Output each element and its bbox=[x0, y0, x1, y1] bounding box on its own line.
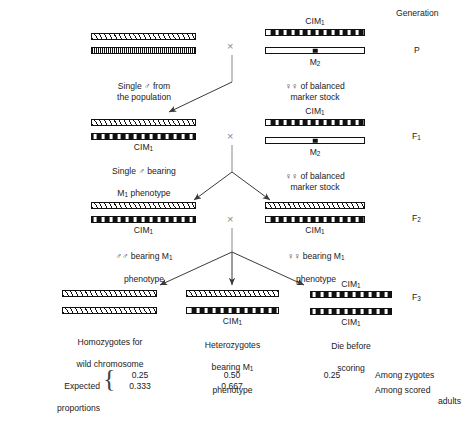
caption-p-left-text: Single ♂ from the population bbox=[117, 81, 171, 102]
label-f3-middle-cim1-text: CIM bbox=[223, 316, 239, 326]
generation-f2-sub: 2 bbox=[417, 216, 421, 223]
generation-p-text: P bbox=[414, 45, 420, 55]
arrow-f1-to-f2 bbox=[194, 145, 270, 200]
caption-f2-left-line1-pre: ♂♂ bearing M bbox=[115, 251, 169, 261]
label-f1-left-cim1-sub: 1 bbox=[150, 145, 154, 152]
label-f3-right-cim1-top: CIM1 bbox=[310, 279, 392, 291]
proportion-middle-adults: 0.667 bbox=[192, 381, 272, 392]
proportion-left-adults: 0.333 bbox=[100, 381, 180, 392]
label-p-right-m2-text: M bbox=[310, 57, 317, 67]
caption-f2-left-line2: phenotype bbox=[124, 274, 164, 284]
label-f1-right-cim1-text: CIM bbox=[305, 106, 321, 116]
chromosome-p-left-population bbox=[91, 47, 196, 54]
note-among-scored-adults-line2: adults bbox=[375, 396, 461, 407]
label-f1-right-m2: M2 bbox=[265, 147, 365, 159]
label-f3-right-cim1-bottom: CIM1 bbox=[310, 317, 392, 329]
chromosome-f3-middle-wild bbox=[186, 290, 279, 297]
chromosome-f2-right-cim1 bbox=[265, 216, 365, 223]
caption-f2-right-line1-sub: 1 bbox=[341, 254, 345, 261]
label-f3-right-cim1-top-text: CIM bbox=[341, 279, 357, 289]
generation-label-p: P bbox=[414, 45, 420, 56]
label-p-right-cim1-sub: 1 bbox=[321, 19, 325, 26]
generation-header: Generation bbox=[396, 8, 439, 19]
caption-f1-left-line2-post: phenotype bbox=[128, 188, 171, 198]
label-f2-right-cim1-sub: 1 bbox=[321, 228, 325, 235]
caption-f1-right: ♀♀ of balanced marker stock bbox=[265, 160, 365, 193]
expected-proportions-line2: proportions bbox=[57, 403, 100, 413]
chromosome-p-left-wild bbox=[91, 33, 196, 40]
note-among-scored-adults-line1: Among scored bbox=[375, 385, 461, 396]
label-p-right-cim1-text: CIM bbox=[305, 16, 321, 26]
proportion-middle-zygotes: 0.50 bbox=[192, 370, 272, 381]
label-f2-left-cim1-text: CIM bbox=[134, 225, 150, 235]
chromosome-p-right-m2 bbox=[265, 47, 365, 54]
expected-proportions-label: Expected proportions bbox=[38, 370, 100, 414]
chromosome-f3-right-cim1-2 bbox=[310, 308, 392, 315]
cross-symbol-f2: × bbox=[227, 214, 233, 225]
caption-f1-left: Single ♂ bearing M1 phenotype bbox=[86, 155, 202, 200]
caption-f3-right-line1: Die before bbox=[331, 341, 371, 351]
caption-p-left: Single ♂ from the population bbox=[93, 70, 195, 103]
label-f1-right-m2-sub: 2 bbox=[317, 150, 321, 157]
expected-proportions-line1: Expected bbox=[64, 381, 100, 391]
caption-p-right: ♀♀ of balanced marker stock bbox=[265, 70, 365, 103]
caption-f1-left-line2-pre: M bbox=[117, 188, 124, 198]
cross-symbol-f1: × bbox=[227, 131, 233, 142]
chromosome-f2-left-cim1 bbox=[91, 216, 196, 223]
label-f3-middle-cim1-sub: 1 bbox=[239, 319, 243, 326]
label-f1-left-cim1: CIM1 bbox=[91, 142, 196, 154]
label-f1-right-cim1-sub: 1 bbox=[321, 109, 325, 116]
label-p-right-m2-sub: 2 bbox=[317, 60, 321, 67]
caption-f2-left-line1-sub: 1 bbox=[169, 254, 173, 261]
label-f2-left-cim1-sub: 1 bbox=[150, 228, 154, 235]
caption-p-right-text: ♀♀ of balanced marker stock bbox=[285, 81, 345, 102]
label-f2-right-cim1-text: CIM bbox=[305, 225, 321, 235]
chromosome-f1-right-cim1 bbox=[265, 119, 365, 126]
label-f2-right-cim1: CIM1 bbox=[265, 225, 365, 237]
generation-label-f2: F2 bbox=[412, 213, 421, 225]
caption-f2-left: ♂♂ bearing M1 phenotype bbox=[86, 240, 202, 285]
cross-symbol-p: × bbox=[227, 41, 233, 52]
generation-label-f1: F1 bbox=[412, 131, 421, 143]
chromosome-f1-left-wild bbox=[91, 119, 196, 126]
note-among-zygotes: Among zygotes bbox=[375, 370, 461, 381]
label-f1-left-cim1-text: CIM bbox=[134, 142, 150, 152]
generation-f3-sub: 3 bbox=[417, 295, 421, 302]
generation-f1-sub: 1 bbox=[417, 134, 421, 141]
label-f3-right-cim1-bottom-sub: 1 bbox=[357, 320, 361, 327]
genetics-crossing-scheme-figure: × × × Generation P F1 F2 F3 Single ♂ fro… bbox=[0, 0, 465, 423]
caption-f3-left-line1: Homozygotes for bbox=[78, 337, 143, 347]
proportion-right-zygotes: 0.25 bbox=[292, 370, 372, 381]
caption-f3-right: Die before scoring bbox=[306, 330, 396, 374]
proportion-left-zygotes: 0.25 bbox=[100, 370, 180, 381]
label-f3-middle-cim1: CIM1 bbox=[186, 316, 279, 328]
label-p-right-cim1: CIM1 bbox=[265, 16, 365, 28]
chromosome-f3-left-wild-2 bbox=[62, 307, 157, 314]
chromosome-f3-middle-cim1 bbox=[186, 307, 279, 314]
chromosome-p-right-cim1 bbox=[265, 29, 365, 36]
label-f1-right-cim1: CIM1 bbox=[265, 106, 365, 118]
chromosome-f2-left-wild bbox=[91, 202, 196, 209]
label-f1-right-m2-text: M bbox=[310, 147, 317, 157]
caption-f1-left-line1: Single ♂ bearing bbox=[112, 166, 176, 176]
chromosome-f2-right-wild bbox=[265, 202, 365, 209]
chromosome-f1-left-cim1 bbox=[91, 133, 196, 140]
caption-f3-middle-line1: Heterozygotes bbox=[205, 340, 260, 350]
label-f3-right-cim1-top-sub: 1 bbox=[357, 282, 361, 289]
chromosome-f3-right-cim1-1 bbox=[310, 291, 392, 298]
caption-f1-right-text: ♀♀ of balanced marker stock bbox=[285, 171, 345, 192]
chromosome-f3-left-wild-1 bbox=[62, 290, 157, 297]
label-f2-left-cim1: CIM1 bbox=[91, 225, 196, 237]
label-p-right-m2: M2 bbox=[265, 57, 365, 69]
caption-f2-right-line1-pre: ♀♀ bearing M bbox=[287, 251, 341, 261]
generation-label-f3: F3 bbox=[412, 292, 421, 304]
label-f3-right-cim1-bottom-text: CIM bbox=[341, 317, 357, 327]
chromosome-f1-right-m2 bbox=[265, 137, 365, 144]
